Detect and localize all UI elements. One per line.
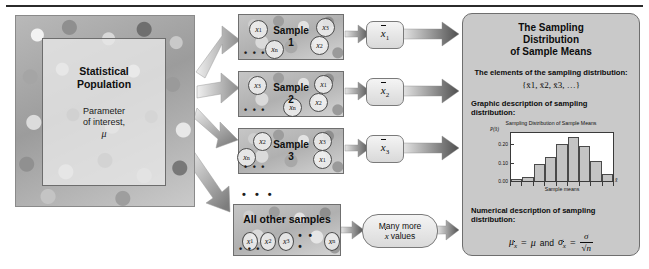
xbar-pill-1: x1	[366, 21, 404, 49]
population-mu-symbol: μ	[83, 128, 125, 139]
element-sub: 3	[287, 238, 290, 244]
xbar-pill-3: x3	[366, 135, 404, 163]
sample-1-label: Sample 1	[239, 25, 343, 48]
panel-title-line1: The Sampling	[469, 22, 633, 34]
chart-x-axis-label: Sample means	[510, 186, 614, 192]
chart-bar-1	[511, 179, 522, 181]
sample-label-word: Sample	[239, 139, 343, 151]
chart-bar-2	[522, 177, 533, 181]
element-sub: n	[332, 238, 335, 244]
xbar-symbol-1: x1	[381, 27, 389, 42]
chart-y-axis-label: P(x̄)	[490, 126, 499, 132]
element-sub: 2	[268, 238, 271, 244]
population-parameter-text: Parameter of interest, μ	[83, 106, 125, 139]
population-sub-line1: Parameter	[83, 106, 125, 117]
arrow-many-more-to-panel	[437, 220, 459, 240]
all-other-element-2: x2	[260, 232, 276, 251]
sampling-distribution-panel: The Sampling Distribution of Sample Mean…	[462, 13, 640, 256]
samples-continuation-ellipsis: • • •	[242, 188, 275, 200]
xbar-sub: 2	[386, 92, 390, 100]
formula-equals-1: =	[521, 237, 527, 248]
element-sub: n	[293, 105, 296, 111]
chart-bar-9	[602, 174, 613, 181]
sample-label-word: Sample	[239, 25, 343, 37]
sample-1-ellipsis: • • •	[244, 50, 266, 56]
sample-box-3: x2 x3 xn x1 Sample 3 • • •	[238, 128, 344, 174]
chart-bars	[511, 133, 613, 181]
chart-x-axis-arrow-label: x̄	[615, 177, 617, 183]
sampling-distribution-formula: μx = μ and σx = σ √n	[469, 232, 633, 253]
sample-2-ellipsis: • • •	[244, 107, 266, 113]
arrow-xbar-2-to-panel	[402, 79, 459, 103]
arrow-xbar-3-to-panel	[402, 136, 459, 160]
elements-heading: The elements of the sampling distributio…	[469, 68, 633, 77]
many-more-values-word: values	[391, 231, 416, 241]
chart-bar-8	[590, 161, 601, 181]
xbar-symbol-3: x3	[381, 141, 389, 156]
arrow-population-to-sample-3	[194, 108, 238, 148]
chart-bar-5	[556, 144, 567, 181]
panel-title-line2: Distribution	[469, 34, 633, 46]
population-sub-line2: of interest,	[83, 117, 125, 128]
chart-bar-7	[579, 146, 590, 181]
chart-ytick-2: 0.20	[498, 141, 511, 147]
top-divider-rule	[6, 5, 643, 7]
all-other-element-3: x3	[278, 232, 294, 251]
all-other-element-n: xn	[324, 232, 340, 251]
many-more-xbar-values-pill: Many more x values	[362, 214, 438, 248]
arrow-population-to-sample-1	[196, 26, 240, 78]
chart-bar-6	[568, 137, 579, 181]
xbar-pill-2: x2	[366, 78, 404, 106]
fraction-numerator: σ	[582, 232, 590, 242]
statistical-population-panel: Statistical Population Parameter of inte…	[15, 15, 195, 207]
sample-box-1: x1 x3 x2 xn Sample 1 • • •	[238, 14, 344, 60]
formula-mu: μ	[531, 237, 536, 248]
sample-label-number: 2	[239, 94, 343, 106]
sample-label-word: Sample	[239, 82, 343, 94]
formula-mu-xbar: μx	[509, 236, 517, 250]
all-other-samples-ellipsis: • • •	[239, 246, 261, 252]
numerical-description-heading: Numerical description of sampling distri…	[469, 206, 633, 224]
arrow-xbar-1-to-panel	[402, 22, 459, 46]
panel-title-line3: of Sample Means	[469, 46, 633, 58]
population-title-line1: Statistical	[77, 65, 131, 78]
sample-box-2: x3 x1 x2 xn Sample 2 • • •	[238, 71, 344, 117]
formula-and: and	[540, 238, 554, 248]
formula-sigma-xbar: σx	[558, 236, 566, 250]
sampling-distribution-histogram: Sampling Distribution of Sample Means P(…	[476, 120, 626, 196]
xbar-symbol-2: x2	[381, 84, 389, 99]
figure-canvas: Statistical Population Parameter of inte…	[0, 0, 649, 269]
sigma-subscript-xbar: x	[563, 242, 566, 250]
population-inner-box: Statistical Population Parameter of inte…	[42, 38, 166, 186]
many-more-line2: x values	[385, 231, 416, 241]
all-other-samples-title: All other samples	[234, 213, 340, 225]
many-more-xbar-symbol: x	[385, 231, 389, 241]
chart-bar-3	[534, 164, 545, 181]
xbar-base: x	[385, 231, 389, 241]
sample-3-ellipsis: • • •	[244, 164, 266, 170]
panel-title: The Sampling Distribution of Sample Mean…	[469, 22, 633, 58]
arrow-population-to-sample-2	[197, 73, 239, 103]
chart-ytick-1: 0.10	[498, 160, 511, 166]
formula-equals-2: =	[570, 237, 576, 248]
all-other-inline-ellipsis: • • •	[296, 230, 322, 252]
population-title-line2: Population	[77, 78, 131, 91]
chart-bar-4	[545, 157, 556, 181]
elements-set: {x̄1, x̄2, x̄3, …}	[469, 80, 633, 90]
arrow-all-other-to-many-more	[341, 221, 364, 239]
graphic-description-heading: Graphic description of sampling distribu…	[469, 99, 633, 117]
sample-3-label: Sample 3	[239, 139, 343, 162]
xbar-sub: 3	[386, 149, 390, 157]
sample-label-number: 3	[239, 151, 343, 163]
mu-subscript-xbar: x	[514, 242, 517, 250]
sample-label-number: 1	[239, 37, 343, 49]
sample-2-label: Sample 2	[239, 82, 343, 105]
all-other-samples-box: All other samples x1 x2 x3 • • • xn • • …	[233, 204, 341, 256]
chart-plot-area: 0.00 0.10 0.20	[510, 132, 614, 182]
population-title: Statistical Population	[77, 65, 131, 90]
formula-fraction: σ √n	[580, 232, 593, 253]
denominator-n: n	[587, 243, 592, 253]
fraction-denominator: √n	[580, 242, 593, 253]
xbar-sub: 1	[386, 35, 390, 43]
